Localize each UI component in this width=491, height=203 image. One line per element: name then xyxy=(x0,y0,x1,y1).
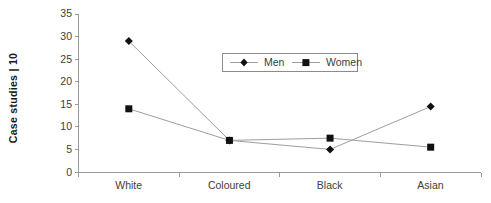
y-tick-label: 15 xyxy=(60,98,72,110)
y-tick-label: 5 xyxy=(66,143,72,155)
y-tick-label: 20 xyxy=(60,75,72,87)
square-icon xyxy=(302,59,309,66)
y-axis-tick-labels: 0 5 10 15 20 25 30 35 xyxy=(60,7,72,177)
y-tick-label: 10 xyxy=(60,120,72,132)
x-tick-label: Black xyxy=(317,179,343,191)
y-tick-label: 25 xyxy=(60,53,72,65)
diamond-icon xyxy=(326,145,334,153)
y-tick-label: 0 xyxy=(66,166,72,178)
line-chart: Case studies | 10 0 5 10 15 20 25 30 35 xyxy=(0,0,491,203)
chart-canvas: Case studies | 10 0 5 10 15 20 25 30 35 xyxy=(0,0,491,203)
x-tick-label: Asian xyxy=(417,179,443,191)
chart-legend: Men Women xyxy=(223,54,363,72)
y-tick-label: 35 xyxy=(60,7,72,19)
series-line xyxy=(129,109,431,147)
legend-label-women: Women xyxy=(326,56,362,68)
x-axis-tick-labels: White Coloured Black Asian xyxy=(115,179,444,191)
square-icon xyxy=(327,135,334,142)
square-icon xyxy=(226,137,233,144)
x-axis xyxy=(79,173,482,178)
diamond-icon xyxy=(427,103,435,111)
y-axis xyxy=(75,14,79,172)
y-tick-label: 30 xyxy=(60,30,72,42)
x-tick-label: White xyxy=(115,179,142,191)
series-women xyxy=(125,105,434,150)
x-tick-label: Coloured xyxy=(208,179,251,191)
square-icon xyxy=(125,105,132,112)
square-icon xyxy=(427,144,434,151)
legend-label-men: Men xyxy=(264,56,285,68)
y-axis-title: Case studies | 10 xyxy=(7,53,19,143)
